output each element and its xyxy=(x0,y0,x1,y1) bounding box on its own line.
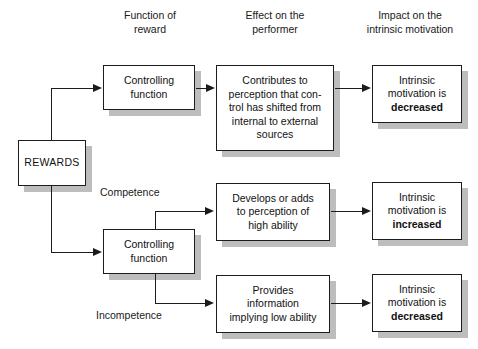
node-effect-high-ability-label: Develops or adds to perception of high a… xyxy=(232,192,314,233)
diagram-canvas: Function of reward Effect on the perform… xyxy=(0,0,478,349)
impact-increased-emphasis: increased xyxy=(392,218,441,230)
node-effect-control-shifted[interactable]: Contributes to perception that con- trol… xyxy=(216,65,334,151)
node-effect-high-ability[interactable]: Develops or adds to perception of high a… xyxy=(216,183,330,241)
node-impact-decreased-bottom-label: Intrinsic motivation is decreased xyxy=(388,283,446,324)
arrowhead-branch-incompetence xyxy=(205,299,214,307)
column-header-effect-on-performer: Effect on the performer xyxy=(224,8,326,36)
arrowhead-effect-to-impact-top xyxy=(362,84,371,92)
node-impact-decreased-top[interactable]: Intrinsic motivation is decreased xyxy=(372,65,462,123)
connector-effect-to-impact-top xyxy=(335,88,363,89)
node-impact-decreased-top-label: Intrinsic motivation is decreased xyxy=(388,74,446,115)
arrowhead-controlling-top-to-effect xyxy=(206,84,215,92)
node-controlling-function-top-label: Controlling function xyxy=(124,74,174,101)
column-header-function-of-reward: Function of reward xyxy=(99,8,201,36)
impact-increased-prefix: Intrinsic motivation is xyxy=(388,191,446,217)
impact-decreased-bottom-emphasis: decreased xyxy=(391,310,443,322)
node-controlling-function-bottom-label: Controlling function xyxy=(124,238,174,265)
connector-rewards-to-controlling-bottom xyxy=(51,252,94,253)
connector-effect-to-impact-bottom xyxy=(331,303,363,304)
connector-branch-incompetence xyxy=(155,303,206,304)
node-effect-low-ability[interactable]: Provides information implying low abilit… xyxy=(216,275,330,333)
column-header-impact-on-intrinsic-motivation: Impact on the intrinsic motivation xyxy=(347,8,473,36)
arrowhead-effect-to-impact-middle xyxy=(362,207,371,215)
edge-label-competence: Competence xyxy=(100,186,160,199)
arrowhead-rewards-to-controlling-bottom xyxy=(93,248,102,256)
node-effect-low-ability-label: Provides information implying low abilit… xyxy=(230,284,317,325)
connector-effect-to-impact-middle xyxy=(331,211,363,212)
node-impact-increased-label: Intrinsic motivation is increased xyxy=(388,191,446,232)
connector-branch-competence xyxy=(155,211,206,212)
impact-decreased-top-emphasis: decreased xyxy=(391,101,443,113)
node-rewards-label: REWARDS xyxy=(24,156,79,170)
impact-decreased-top-prefix: Intrinsic motivation is xyxy=(388,74,446,100)
node-impact-increased[interactable]: Intrinsic motivation is increased xyxy=(372,182,462,240)
node-rewards[interactable]: REWARDS xyxy=(18,140,86,186)
arrowhead-effect-to-impact-bottom xyxy=(362,299,371,307)
arrowhead-rewards-to-controlling-top xyxy=(93,84,102,92)
arrowhead-branch-competence xyxy=(205,207,214,215)
edge-label-incompetence: Incompetence xyxy=(96,309,162,322)
impact-decreased-bottom-prefix: Intrinsic motivation is xyxy=(388,283,446,309)
node-controlling-function-top[interactable]: Controlling function xyxy=(103,65,195,110)
connector-rewards-to-controlling-top xyxy=(51,88,94,89)
node-effect-control-shifted-label: Contributes to perception that con- trol… xyxy=(229,74,322,142)
node-controlling-function-bottom[interactable]: Controlling function xyxy=(103,229,195,274)
node-impact-decreased-bottom[interactable]: Intrinsic motivation is decreased xyxy=(372,274,462,332)
